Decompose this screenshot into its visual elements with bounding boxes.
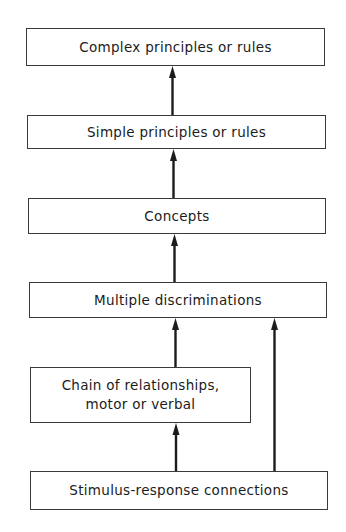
arrow-concepts-to-simple — [170, 149, 177, 198]
arrow-multiple-to-concepts — [171, 234, 178, 282]
arrow-chain-to-multiple — [172, 318, 179, 367]
arrow-simple-to-complex — [169, 66, 176, 115]
arrowhead-icon — [170, 149, 177, 161]
arrowhead-icon — [173, 423, 180, 435]
arrowhead-icon — [169, 66, 176, 78]
node-complex-principles: Complex principles or rules — [26, 28, 325, 66]
arrow-stimulus-to-multiple — [271, 318, 278, 471]
arrowhead-icon — [172, 318, 179, 330]
node-stimulus-response: Stimulus-response connections — [30, 471, 328, 510]
node-label: Chain of relationships, motor or verbal — [62, 376, 220, 414]
arrow-stimulus-to-chain — [173, 423, 180, 471]
node-concepts: Concepts — [28, 198, 326, 234]
node-label: Complex principles or rules — [79, 38, 271, 57]
arrowhead-icon — [271, 318, 278, 330]
connector-arrows — [0, 0, 346, 532]
node-chain-of-relationships: Chain of relationships, motor or verbal — [30, 367, 251, 423]
node-label: Stimulus-response connections — [69, 481, 288, 500]
node-multiple-discriminations: Multiple discriminations — [29, 282, 327, 318]
arrowhead-icon — [171, 234, 178, 246]
node-label: Multiple discriminations — [94, 291, 262, 310]
node-label: Concepts — [144, 207, 209, 226]
node-simple-principles: Simple principles or rules — [27, 115, 326, 149]
node-label: Simple principles or rules — [87, 123, 266, 142]
